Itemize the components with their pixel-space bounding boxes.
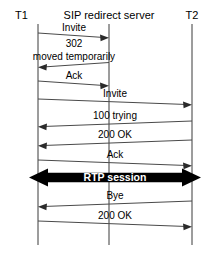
sip-sequence-diagram: T1 SIP redirect server T2 Invite 302 mov… bbox=[0, 0, 218, 253]
arrowhead-right-invite-2 bbox=[183, 102, 192, 109]
message-label-moved-temporarily: moved temporarily bbox=[33, 51, 115, 62]
message-label-200-ok-1: 200 OK bbox=[98, 129, 132, 140]
arrowhead-left-100-trying bbox=[38, 124, 47, 131]
message-label-invite-1: Invite bbox=[62, 22, 86, 33]
message-label-100-trying: 100 trying bbox=[93, 110, 137, 121]
message-label-rtp-session: RTP session bbox=[84, 171, 147, 183]
message-rtp-session: RTP session bbox=[29, 169, 201, 187]
message-302-moved-temporarily: 302 moved temporarily bbox=[33, 38, 115, 71]
message-label-bye: Bye bbox=[106, 190, 124, 201]
message-200-ok-2: 200 OK bbox=[38, 210, 192, 230]
message-line-invite-1 bbox=[38, 33, 104, 38]
message-line-100-trying bbox=[43, 121, 192, 127]
lifeline-label-t1: T1 bbox=[15, 9, 28, 21]
message-label-200-ok-2: 200 OK bbox=[98, 210, 132, 221]
message-line-200-ok-2 bbox=[38, 221, 187, 227]
diagram-canvas: T1 SIP redirect server T2 Invite 302 mov… bbox=[0, 0, 218, 253]
message-line-invite-2 bbox=[38, 99, 187, 105]
arrowhead-right-invite-1 bbox=[100, 35, 109, 42]
message-label-invite-2: Invite bbox=[103, 88, 127, 99]
message-200-ok-1: 200 OK bbox=[38, 129, 192, 149]
lifeline-label-server: SIP redirect server bbox=[64, 9, 155, 21]
message-line-ack-1 bbox=[38, 81, 104, 86]
arrowhead-right-ack-2 bbox=[183, 163, 192, 170]
message-invite-2: Invite bbox=[38, 88, 192, 108]
message-100-trying: 100 trying bbox=[38, 110, 192, 130]
message-label-302: 302 bbox=[66, 38, 83, 49]
message-line-bye bbox=[43, 201, 192, 207]
message-line-200-ok-1 bbox=[43, 140, 192, 146]
message-ack-1: Ack bbox=[38, 70, 109, 89]
lifeline-label-t2: T2 bbox=[186, 9, 199, 21]
arrowhead-left-bye bbox=[38, 204, 47, 211]
arrowhead-left-302 bbox=[38, 64, 47, 71]
message-line-302 bbox=[43, 63, 109, 68]
message-label-ack-1: Ack bbox=[66, 70, 84, 81]
message-bye: Bye bbox=[38, 190, 192, 210]
message-line-ack-2 bbox=[38, 160, 187, 166]
message-label-ack-2: Ack bbox=[107, 149, 125, 160]
arrowhead-left-200-ok-1 bbox=[38, 143, 47, 150]
arrowhead-right-200-ok-2 bbox=[183, 224, 192, 231]
message-ack-2: Ack bbox=[38, 149, 192, 169]
